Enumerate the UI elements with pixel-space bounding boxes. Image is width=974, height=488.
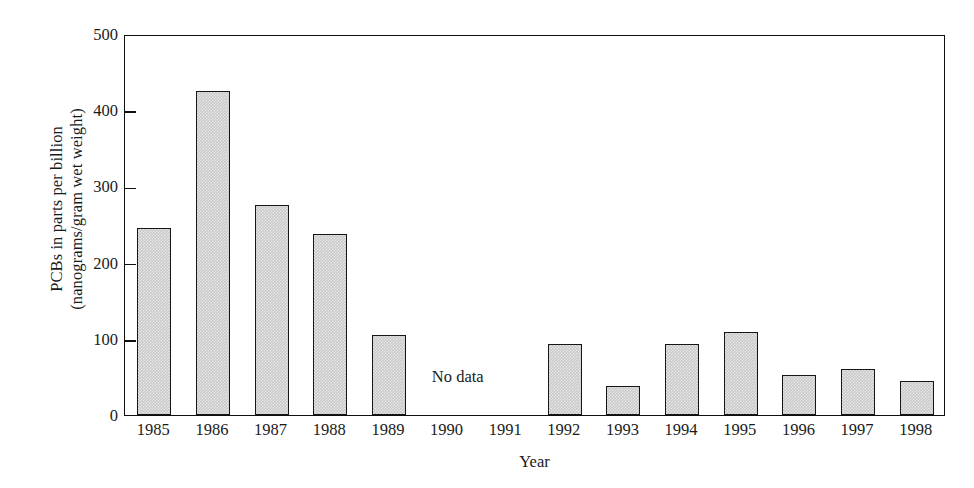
bar-slot xyxy=(360,36,419,415)
bar-slot xyxy=(242,36,301,415)
bar-slot xyxy=(653,36,712,415)
y-axis-tick-label: 100 xyxy=(72,332,118,349)
x-axis-title: Year xyxy=(124,452,945,472)
no-data-annotation: No data xyxy=(432,367,484,387)
x-axis-tick-label: 1998 xyxy=(881,422,951,439)
bar-slot xyxy=(711,36,770,415)
bar-slot xyxy=(125,36,184,415)
bar-slot xyxy=(887,36,946,415)
bar[interactable] xyxy=(196,91,230,415)
chart-figure: PCBs in parts per billion (nanograms/gra… xyxy=(0,0,974,488)
bar-series xyxy=(125,36,944,415)
y-axis-tick-label: 200 xyxy=(72,256,118,273)
y-axis-title-line1: PCBs in parts per billion xyxy=(47,19,67,399)
bar[interactable] xyxy=(548,344,582,415)
bar-slot xyxy=(301,36,360,415)
x-axis-tick-labels: 1985198619871988198919901991199219931994… xyxy=(124,0,945,60)
bar-slot xyxy=(477,36,536,415)
bar[interactable] xyxy=(255,205,289,415)
y-axis-tick-label: 0 xyxy=(72,408,118,425)
y-axis-tick-label: 300 xyxy=(72,179,118,196)
bar[interactable] xyxy=(665,344,699,415)
bar[interactable] xyxy=(782,375,816,415)
bar[interactable] xyxy=(900,381,934,415)
y-axis-tick-label: 400 xyxy=(72,103,118,120)
bar[interactable] xyxy=(724,332,758,415)
bar-slot xyxy=(829,36,888,415)
bar-slot xyxy=(418,36,477,415)
bar[interactable] xyxy=(372,335,406,415)
y-axis-tick-labels: 0100200300400500 xyxy=(72,0,118,488)
bar[interactable] xyxy=(137,228,171,415)
y-axis-tick-label: 500 xyxy=(72,27,118,44)
bar-slot xyxy=(536,36,595,415)
bar[interactable] xyxy=(606,386,640,415)
bar-slot xyxy=(594,36,653,415)
bar-slot xyxy=(770,36,829,415)
bar[interactable] xyxy=(313,234,347,415)
bar-slot xyxy=(184,36,243,415)
plot-area: No data xyxy=(124,35,945,416)
bar[interactable] xyxy=(841,369,875,415)
